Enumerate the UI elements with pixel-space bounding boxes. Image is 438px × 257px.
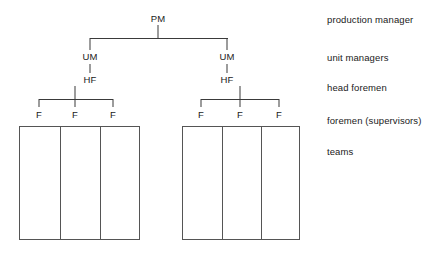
connector-bus-to-foreman-left-1	[39, 99, 40, 107]
team-divider-left-2	[100, 127, 101, 239]
connector-hf-stem-right	[240, 86, 241, 99]
node-foreman-right-3: F	[276, 110, 282, 120]
node-head-foreman-left: HF	[83, 75, 96, 85]
connector-um-to-hf-right	[227, 64, 228, 73]
team-group-right	[182, 126, 300, 240]
node-foreman-left-1: F	[36, 110, 42, 120]
connector-bus-to-foreman-left-2	[75, 99, 76, 107]
connector-pm-stem	[158, 25, 159, 38]
node-foreman-right-2: F	[237, 110, 243, 120]
legend-label-teams: teams	[327, 147, 353, 157]
team-group-left	[19, 126, 140, 240]
legend-label-head-foremen: head foremen	[327, 83, 387, 93]
connector-um-to-hf-left	[90, 64, 91, 73]
node-unit-manager-right: UM	[219, 52, 234, 62]
connector-bus-to-foreman-right-1	[201, 99, 202, 107]
connector-bus-to-foreman-right-2	[240, 99, 241, 107]
connector-bus-to-foreman-left-3	[113, 99, 114, 107]
team-divider-right-1	[222, 127, 223, 239]
legend-label-foremen-supervisors: foremen (supervisors)	[327, 116, 422, 126]
org-chart-diagram: PM UM UM HF HF F F F F F F production ma…	[0, 0, 438, 257]
connector-pm-to-um-right	[227, 38, 228, 50]
team-divider-left-1	[60, 127, 61, 239]
node-foreman-left-3: F	[110, 110, 116, 120]
connector-foremen-bus-left	[39, 99, 113, 100]
legend-label-unit-managers: unit managers	[327, 53, 389, 63]
team-divider-right-2	[261, 127, 262, 239]
legend-label-production-manager: production manager	[327, 15, 413, 25]
connector-pm-to-um-left	[90, 38, 91, 50]
node-foreman-right-1: F	[198, 110, 204, 120]
connector-pm-bus	[90, 38, 228, 39]
node-foreman-left-2: F	[72, 110, 78, 120]
connector-bus-to-foreman-right-3	[279, 99, 280, 107]
connector-hf-stem-left	[75, 86, 76, 99]
node-unit-manager-left: UM	[82, 52, 97, 62]
node-production-manager: PM	[151, 14, 166, 24]
node-head-foreman-right: HF	[220, 75, 233, 85]
